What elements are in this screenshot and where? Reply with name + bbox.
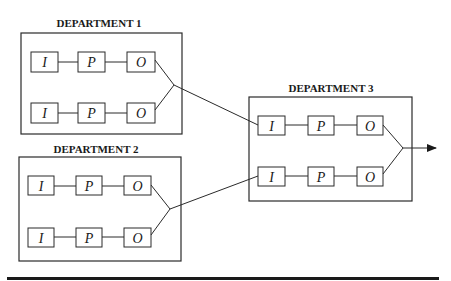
process-label: P bbox=[316, 170, 326, 185]
process-label: P bbox=[84, 231, 94, 246]
output-label: O bbox=[136, 55, 146, 70]
department-3: DEPARTMENT 3 I P O I P O bbox=[249, 82, 436, 201]
process-label: P bbox=[316, 119, 326, 134]
process-label: P bbox=[86, 55, 96, 70]
connector-dept1-to-dept3 bbox=[174, 85, 258, 125]
output-merge-connector bbox=[151, 185, 170, 235]
department-1-title: DEPARTMENT 1 bbox=[56, 17, 141, 29]
process-label: P bbox=[84, 179, 94, 194]
output-label: O bbox=[132, 231, 142, 246]
department-3-title: DEPARTMENT 3 bbox=[288, 82, 374, 94]
output-merge-connector bbox=[155, 60, 174, 110]
department-flow-diagram: DEPARTMENT 1 I P O I P O DEPARTMENT 2 I … bbox=[0, 0, 451, 281]
bottom-rule-divider bbox=[7, 277, 439, 280]
department-2-title: DEPARTMENT 2 bbox=[53, 143, 139, 155]
output-label: O bbox=[365, 170, 375, 185]
department-2: DEPARTMENT 2 I P O I P O bbox=[19, 143, 181, 261]
output-label: O bbox=[365, 119, 375, 134]
output-label: O bbox=[132, 179, 142, 194]
connector-dept2-to-dept3 bbox=[170, 176, 258, 209]
process-label: P bbox=[86, 106, 96, 121]
department-1: DEPARTMENT 1 I P O I P O bbox=[21, 17, 182, 134]
output-label: O bbox=[136, 106, 146, 121]
output-merge-connector bbox=[383, 125, 403, 174]
